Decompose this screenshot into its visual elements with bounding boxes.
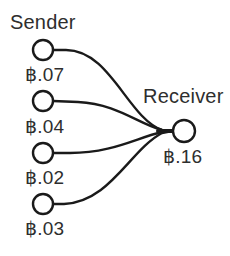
sender-title: Sender [10,12,76,32]
edge-input-3-to-receiver [53,131,172,153]
receiver-title: Receiver [143,86,224,106]
sender-input-node-1 [33,40,53,60]
sender-input-amount-1: ฿.07 [25,65,64,85]
sender-input-node-2 [33,91,53,111]
sender-input-amount-3: ฿.02 [25,168,64,188]
transaction-diagram: Sender ฿.07 ฿.04 ฿.02 ฿.03 Receiver ฿.16 [0,0,230,256]
sender-input-node-3 [33,143,53,163]
receiver-amount: ฿.16 [163,147,202,167]
sender-input-amount-4: ฿.03 [25,219,64,239]
edge-input-4-to-receiver [53,131,172,204]
sender-input-amount-2: ฿.04 [25,117,64,137]
receiver-node [173,120,195,142]
sender-input-node-4 [33,194,53,214]
